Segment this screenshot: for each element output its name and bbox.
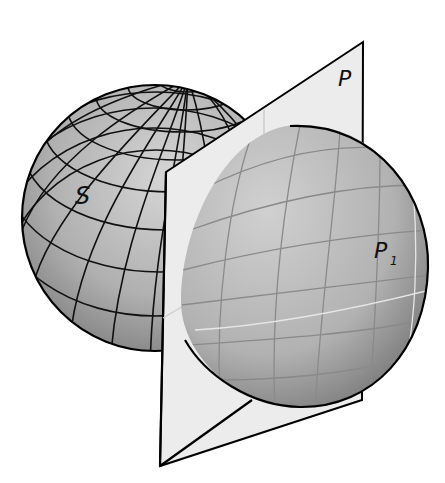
label-p1-subscript: 1 [390, 254, 398, 268]
label-s: S [75, 182, 90, 210]
sphere-plane-diagram: S P P 1 [0, 0, 445, 483]
label-p1: P [374, 238, 388, 263]
label-p: P [338, 66, 352, 91]
